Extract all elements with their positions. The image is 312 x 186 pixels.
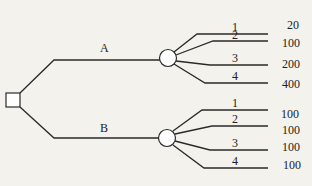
payoff-b4: 100 bbox=[283, 158, 301, 172]
payoff-a1: 20 bbox=[287, 18, 299, 32]
outcome-b3-line bbox=[175, 141, 268, 150]
outcome-b4-line bbox=[173, 145, 268, 168]
outcome-a2-line bbox=[176, 41, 268, 55]
outcome-a3-line bbox=[176, 61, 268, 65]
payoff-a2: 100 bbox=[282, 36, 300, 50]
branch-b: B 1 2 3 4 100 100 100 100 bbox=[20, 96, 301, 172]
outcome-b4-label: 4 bbox=[232, 154, 238, 168]
payoff-b3: 100 bbox=[282, 140, 300, 154]
outcome-a4-line bbox=[174, 64, 268, 83]
decision-tree-diagram: A 1 2 3 4 20 100 200 400 B 1 2 3 4 100 1… bbox=[0, 0, 312, 186]
payoff-b1: 100 bbox=[281, 107, 299, 121]
chance-node-b-circle bbox=[159, 130, 176, 147]
outcome-a1-line bbox=[174, 34, 268, 52]
branch-a-label: A bbox=[100, 41, 109, 55]
branch-b-label: B bbox=[100, 121, 108, 135]
chance-node-a-circle bbox=[160, 50, 177, 67]
branch-a-line bbox=[20, 60, 160, 93]
branch-b-line bbox=[20, 107, 159, 138]
branch-a: A 1 2 3 4 20 100 200 400 bbox=[20, 18, 300, 93]
outcome-b2-label: 2 bbox=[232, 112, 238, 126]
outcome-a3-label: 3 bbox=[232, 51, 238, 65]
outcome-b1-label: 1 bbox=[232, 96, 238, 110]
payoff-b2: 100 bbox=[282, 123, 300, 137]
payoff-a3: 200 bbox=[282, 57, 300, 71]
outcome-a2-label: 2 bbox=[232, 28, 238, 42]
outcome-b2-line bbox=[175, 126, 268, 134]
outcome-a4-label: 4 bbox=[232, 69, 238, 83]
decision-node-square bbox=[6, 93, 20, 107]
outcome-b3-label: 3 bbox=[232, 136, 238, 150]
outcome-b1-line bbox=[173, 110, 268, 131]
payoff-a4: 400 bbox=[282, 77, 300, 91]
